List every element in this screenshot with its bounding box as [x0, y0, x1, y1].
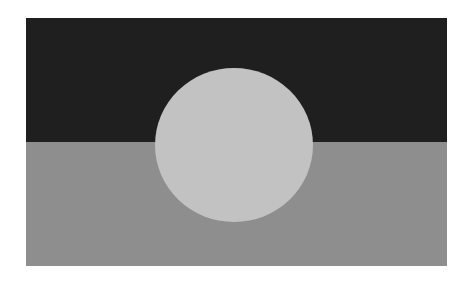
flag-center-disc — [155, 68, 313, 222]
flag — [26, 18, 447, 266]
